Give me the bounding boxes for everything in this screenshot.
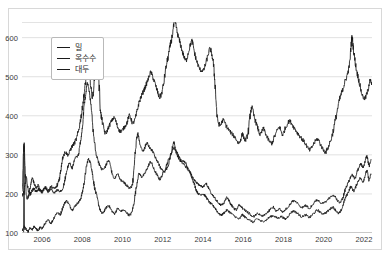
x-tick-label: 2016 bbox=[235, 235, 252, 244]
legend-item-label: 밀 bbox=[75, 42, 82, 53]
legend-line-icon bbox=[57, 47, 70, 48]
y-tick-label: 500 bbox=[5, 72, 18, 81]
x-tick-label: 2020 bbox=[315, 235, 332, 244]
x-tick-label: 2006 bbox=[34, 235, 51, 244]
x-tick-label: 2012 bbox=[154, 235, 171, 244]
y-tick-label: 100 bbox=[5, 229, 18, 238]
y-tick-label: 300 bbox=[5, 150, 18, 159]
legend-item-2[interactable]: 대두 bbox=[57, 64, 96, 75]
legend-item-label: 대두 bbox=[75, 64, 89, 75]
x-tick-label: 2018 bbox=[275, 235, 292, 244]
y-tick-label: 400 bbox=[5, 111, 18, 120]
chart-figure: 100200300400500600 200620082010201220142… bbox=[0, 0, 392, 264]
legend-item-1[interactable]: 옥수수 bbox=[57, 53, 96, 64]
x-axis-ticks bbox=[22, 233, 372, 234]
series-spike bbox=[24, 146, 25, 232]
y-tick-label: 600 bbox=[5, 33, 18, 42]
x-tick-label: 2022 bbox=[355, 235, 372, 244]
y-tick-label: 200 bbox=[5, 189, 18, 198]
legend-item-0[interactable]: 밀 bbox=[57, 42, 96, 53]
legend-line-icon bbox=[57, 58, 70, 59]
x-tick-label: 2008 bbox=[74, 235, 91, 244]
y-axis-tick-labels: 100200300400500600 bbox=[0, 22, 20, 233]
legend-line-icon bbox=[57, 69, 70, 70]
x-tick-label: 2010 bbox=[114, 235, 131, 244]
chart-legend[interactable]: 밀 옥수수 대두 bbox=[51, 37, 104, 80]
x-axis-tick-labels: 200620082010201220142016201820202022 bbox=[22, 235, 372, 249]
legend-item-label: 옥수수 bbox=[75, 53, 96, 64]
x-tick-label: 2014 bbox=[194, 235, 211, 244]
series-line bbox=[22, 82, 371, 217]
